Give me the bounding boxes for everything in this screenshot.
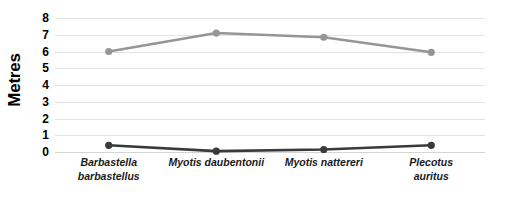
y-axis-tick: 3 (42, 96, 49, 108)
series-grey-marker (213, 29, 220, 36)
data-series-layer (55, 18, 485, 152)
y-axis-title: Metres (0, 0, 30, 160)
series-grey-line (109, 33, 432, 52)
y-axis-tick: 1 (42, 129, 49, 141)
x-axis-category-labels: Barbastella barbastellusMyotis daubenton… (55, 155, 485, 200)
series-dark-marker (428, 142, 435, 149)
x-axis-category-label: Myotis daubentonii (168, 155, 264, 169)
plot-area (55, 18, 485, 152)
series-grey-marker (105, 48, 112, 55)
line-chart: Metres 876543210 Barbastella barbastellu… (0, 0, 511, 200)
series-dark-marker (213, 148, 220, 155)
y-axis-tick: 8 (42, 12, 49, 24)
y-axis-tick: 5 (42, 62, 49, 74)
y-axis-title-label: Metres (5, 53, 25, 107)
x-axis-category-label: Barbastella barbastellus (78, 155, 140, 183)
x-axis-category-label: Myotis nattereri (285, 155, 363, 169)
series-dark-marker (105, 142, 112, 149)
y-axis-tick: 4 (42, 79, 49, 91)
axis-baseline (55, 152, 485, 153)
y-axis-tick: 6 (42, 46, 49, 58)
y-axis-tick: 0 (42, 146, 49, 158)
series-dark-line (109, 145, 432, 151)
y-axis-tick: 2 (42, 113, 49, 125)
series-grey-marker (320, 34, 327, 41)
y-axis-tick: 7 (42, 29, 49, 41)
series-grey (105, 29, 435, 55)
x-axis-category-label: Plecotus auritus (404, 155, 458, 183)
series-dark-marker (320, 146, 327, 153)
series-grey-marker (428, 49, 435, 56)
y-axis-tick-labels: 876543210 (30, 18, 52, 152)
